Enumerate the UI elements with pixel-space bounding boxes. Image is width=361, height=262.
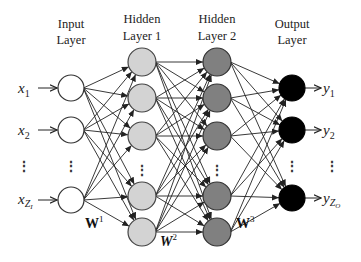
connection-edge — [230, 98, 284, 188]
hidden2-title-line1: Hidden — [199, 12, 237, 26]
output-node-ellipsis: ⋮ — [285, 159, 299, 174]
connection-edge — [155, 202, 204, 232]
network-canvas: Input Layer Hidden Layer 1 Hidden Layer … — [0, 0, 361, 262]
output-label-yzo: yZO — [321, 190, 340, 210]
hidden2-node-2 — [203, 84, 231, 112]
output-layer-title-line1: Output — [275, 17, 310, 31]
connection-edge — [230, 90, 279, 98]
hidden1-node-4 — [128, 182, 156, 210]
connection-edge — [155, 62, 210, 184]
connection-edge — [83, 88, 128, 96]
input-label-ellipsis: ⋮ — [17, 159, 31, 174]
connection-edge — [230, 62, 279, 84]
hidden1-node-1 — [128, 48, 156, 76]
connection-edge — [230, 99, 284, 196]
connection-edge — [83, 130, 134, 221]
input-label-x1: x1 — [17, 80, 30, 99]
connection-edge — [155, 62, 204, 92]
connection-edges — [83, 62, 286, 232]
hidden2-node-3 — [203, 122, 231, 150]
connection-edge — [83, 130, 131, 186]
hidden1-title-line2: Layer 1 — [123, 29, 162, 43]
hidden2-title-line2: Layer 2 — [198, 29, 237, 43]
connection-edge — [230, 62, 285, 187]
hidden1-node-3 — [128, 122, 156, 150]
input-node-3 — [58, 187, 84, 213]
hidden2-node-5 — [203, 218, 231, 246]
input-node-2 — [58, 117, 84, 143]
hidden2-node-4 — [203, 182, 231, 210]
hidden2-node-ellipsis: ⋮ — [210, 163, 224, 178]
weight-label-w3: W3 — [236, 214, 255, 231]
connection-edge — [155, 109, 208, 196]
connection-edge — [155, 110, 210, 232]
output-label-y1: y1 — [321, 80, 335, 99]
input-label-xzi: xZI — [17, 191, 33, 211]
input-layer-title-line2: Layer — [56, 33, 86, 47]
neural-network-diagram: Input Layer Hidden Layer 1 Hidden Layer … — [0, 0, 361, 262]
hidden2-node-1 — [203, 48, 231, 76]
hidden1-node-5 — [128, 218, 156, 246]
output-label-y2: y2 — [321, 122, 335, 141]
input-node-ellipsis: ⋮ — [64, 159, 78, 174]
io-arrows — [38, 88, 321, 200]
output-node-3 — [279, 185, 305, 211]
connection-edge — [155, 145, 206, 196]
connection-edge — [83, 67, 129, 88]
hidden1-node-ellipsis: ⋮ — [135, 163, 149, 178]
output-node-2 — [279, 117, 305, 143]
output-layer-title-line2: Layer — [277, 33, 307, 47]
hidden1-node-2 — [128, 84, 156, 112]
input-node-1 — [58, 75, 84, 101]
input-label-x2: x2 — [17, 122, 30, 141]
input-layer-title-line1: Input — [58, 17, 85, 31]
connection-edge — [230, 100, 286, 232]
connection-edge — [83, 109, 134, 200]
weight-label-w2: W2 — [160, 232, 177, 249]
output-node-1 — [279, 75, 305, 101]
hidden1-title-line1: Hidden — [124, 12, 162, 26]
output-label-ellipsis: ⋮ — [325, 159, 339, 174]
weight-label-w1: W1 — [85, 214, 104, 231]
connection-edge — [83, 88, 134, 184]
connection-edge — [230, 196, 279, 198]
connection-edge — [155, 98, 208, 185]
